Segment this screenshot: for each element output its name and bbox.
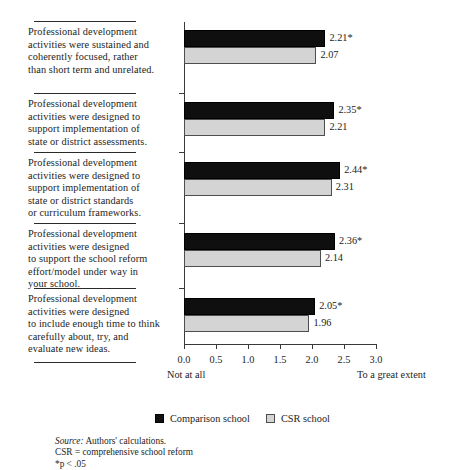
category-divider — [34, 362, 136, 363]
note-significance: *p < .05 — [55, 459, 193, 470]
x-axis-tick — [216, 344, 217, 349]
category-label-line: than short term and unrelated. — [28, 64, 178, 77]
category-label-group-5: Professional development activities were… — [28, 293, 178, 356]
note-source-prefix: Source: — [55, 436, 84, 446]
note-csr-definition: CSR = comprehensive school reform — [55, 447, 193, 458]
category-label-group-3: Professional development activities were… — [28, 157, 178, 220]
category-label-line: to include enough time to think — [28, 318, 178, 331]
category-divider — [34, 21, 136, 22]
category-divider — [34, 93, 136, 94]
category-label-line: Professional development — [28, 293, 178, 306]
x-axis-tick — [184, 344, 185, 349]
legend-swatch-comparison-icon — [155, 414, 164, 423]
category-label-group-1: Professional development activities were… — [28, 26, 178, 76]
category-label-line: activities were designed — [28, 241, 178, 254]
note-source: Source: Authors' calculations. — [55, 436, 193, 447]
legend-item-comparison-school: Comparison school — [155, 413, 250, 424]
category-label-line: state or district standards — [28, 195, 178, 208]
category-label-line: activities were sustained and — [28, 39, 178, 52]
y-axis-group-tick — [179, 288, 184, 289]
bar-csr-5 — [184, 315, 309, 332]
bar-value-comparison-4: 2.36* — [339, 235, 362, 246]
plot-area: 0.0 0.5 1.0 1.5 2.0 2.5 3.0 2.21* 2.07 2… — [184, 22, 376, 344]
bar-value-csr-4: 2.14 — [325, 252, 343, 263]
x-axis-tick-label: 2.0 — [295, 354, 329, 365]
category-label-line: effort/model under way in — [28, 266, 178, 279]
category-divider — [34, 152, 136, 153]
category-label-line: activities were designed to — [28, 170, 178, 183]
bar-value-comparison-2: 2.35* — [338, 104, 361, 115]
scale-anchor-low: Not at all — [167, 369, 205, 380]
x-axis-tick-label: 1.0 — [231, 354, 265, 365]
category-label-line: Professional development — [28, 26, 178, 39]
bar-value-csr-2: 2.21 — [329, 121, 347, 132]
category-label-line: state or district assessments. — [28, 136, 178, 149]
legend: Comparison school CSR school — [0, 413, 459, 429]
scale-anchor-high: To a great extent — [357, 369, 426, 380]
bar-value-csr-5: 1.96 — [313, 317, 331, 328]
category-label-line: carefully about, try, and — [28, 331, 178, 344]
bar-comparison-5 — [184, 298, 315, 315]
category-label-line: support implementation of — [28, 182, 178, 195]
category-label-group-4: Professional development activities were… — [28, 228, 178, 291]
bar-value-comparison-1: 2.21* — [329, 32, 352, 43]
bar-value-comparison-5: 2.05* — [319, 300, 342, 311]
bar-comparison-3 — [184, 162, 340, 179]
category-label-line: Professional development — [28, 228, 178, 241]
bar-value-comparison-3: 2.44* — [344, 164, 367, 175]
category-label-line: or curriculum frameworks. — [28, 207, 178, 220]
category-label-line: activities were designed to — [28, 111, 178, 124]
x-axis-tick-label: 2.5 — [327, 354, 361, 365]
legend-label-csr: CSR school — [281, 413, 330, 424]
legend-swatch-csr-icon — [266, 414, 275, 423]
bar-comparison-4 — [184, 233, 335, 250]
x-axis-tick — [280, 344, 281, 349]
figure-notes: Source: Authors' calculations. CSR = com… — [55, 436, 193, 470]
x-axis-tick — [376, 344, 377, 349]
bar-comparison-2 — [184, 102, 334, 119]
category-label-line: to support the school reform — [28, 253, 178, 266]
category-divider — [34, 288, 136, 289]
category-label-group-2: Professional development activities were… — [28, 98, 178, 148]
bar-csr-2 — [184, 119, 325, 136]
category-label-line: activities were designed — [28, 306, 178, 319]
bar-csr-3 — [184, 179, 332, 196]
x-axis-tick — [312, 344, 313, 349]
category-divider — [34, 223, 136, 224]
legend-item-csr-school: CSR school — [266, 413, 330, 424]
bar-value-csr-1: 2.07 — [320, 49, 338, 60]
y-axis-group-tick — [179, 152, 184, 153]
bar-csr-1 — [184, 47, 316, 64]
y-axis-group-tick — [179, 93, 184, 94]
legend-label-comparison: Comparison school — [170, 413, 250, 424]
category-label-line: evaluate new ideas. — [28, 343, 178, 356]
category-label-line: Professional development — [28, 157, 178, 170]
x-axis-tick-label: 3.0 — [359, 354, 393, 365]
category-label-line: coherently focused, rather — [28, 51, 178, 64]
category-label-line: support implementation of — [28, 123, 178, 136]
x-axis-tick-label: 0.0 — [167, 354, 201, 365]
bar-csr-4 — [184, 250, 321, 267]
bar-comparison-1 — [184, 30, 325, 47]
x-axis-tick-label: 1.5 — [263, 354, 297, 365]
category-label-line: Professional development — [28, 98, 178, 111]
bar-value-csr-3: 2.31 — [336, 181, 354, 192]
x-axis-tick — [248, 344, 249, 349]
category-label-line: your school. — [28, 278, 178, 291]
y-axis-group-tick — [179, 223, 184, 224]
x-axis-tick — [344, 344, 345, 349]
x-axis-tick-label: 0.5 — [199, 354, 233, 365]
note-source-rest: Authors' calculations. — [84, 436, 167, 446]
